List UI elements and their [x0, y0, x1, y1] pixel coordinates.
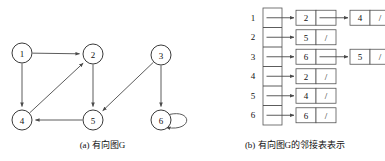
- edge-3-5: [103, 62, 154, 110]
- array-index-6: 6: [251, 110, 256, 120]
- node-label-3: 3: [159, 51, 164, 61]
- adjacency-node-3-1: 6: [296, 49, 348, 64]
- adjacency-node-value: 5: [358, 52, 363, 62]
- adjacency-node-next-cell: [370, 10, 385, 25]
- adjacency-node-value: 4: [304, 91, 309, 101]
- array-index-4: 4: [251, 71, 256, 81]
- node-label-1: 1: [20, 49, 25, 59]
- adjacency-node-3-2: 5/: [350, 49, 385, 64]
- graph-node-5: 5: [83, 110, 103, 130]
- adjacency-node-4-1: 2/: [296, 69, 336, 84]
- array-index-3: 3: [251, 52, 256, 62]
- array-index-5: 5: [251, 91, 256, 101]
- array-index-1: 1: [251, 13, 256, 23]
- graph-node-6: 6: [151, 110, 171, 130]
- edge-4-2: [30, 63, 83, 113]
- graph-node-3: 3: [151, 45, 171, 65]
- graph-node-2: 2: [83, 44, 103, 64]
- adjacency-node-value: 2: [304, 13, 309, 23]
- adjacency-group: 124/25/365/42/54/66/: [251, 8, 385, 125]
- adjacency-node-1-1: 2: [296, 10, 348, 25]
- figure-container: 123456 (a) 有向图G 124/25/365/42/54/66/ (b)…: [0, 0, 385, 161]
- adjacency-node-value: 6: [304, 111, 309, 121]
- nodes-group: 123456: [12, 43, 171, 130]
- node-label-6: 6: [159, 116, 164, 126]
- node-label-2: 2: [91, 50, 96, 60]
- adjacency-node-value: 4: [358, 13, 363, 23]
- adjacency-node-value: 5: [304, 33, 309, 43]
- node-label-5: 5: [91, 116, 96, 126]
- adjacency-list-panel: 124/25/365/42/54/66/ (b) 有向图G的邻接表表示: [205, 0, 385, 161]
- adjacency-node-1-2: 4/: [350, 10, 385, 25]
- adjacency-node-value: 2: [304, 72, 309, 82]
- array-index-2: 2: [251, 32, 256, 42]
- directed-graph-drawing: 123456: [0, 0, 205, 135]
- adjacency-node-next-cell: [370, 49, 385, 64]
- adjacency-node-2-1: 5/: [296, 30, 336, 45]
- adjacency-node-value: 6: [304, 52, 309, 62]
- directed-graph-panel: 123456 (a) 有向图G: [0, 0, 205, 161]
- graph-node-1: 1: [12, 43, 32, 63]
- adjacency-node-5-1: 4/: [296, 88, 336, 103]
- node-label-4: 4: [20, 116, 25, 126]
- adjacency-node-6-1: 6/: [296, 108, 336, 123]
- caption-adjacency: (b) 有向图G的邻接表表示: [205, 138, 385, 151]
- adjacency-list-drawing: 124/25/365/42/54/66/: [205, 0, 385, 135]
- edge-1-2: [32, 53, 79, 54]
- graph-node-4: 4: [12, 110, 32, 130]
- caption-graph: (a) 有向图G: [0, 138, 205, 151]
